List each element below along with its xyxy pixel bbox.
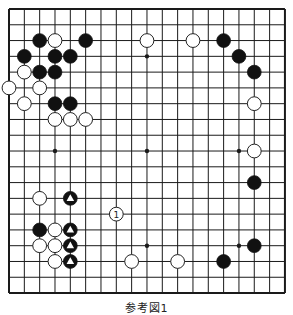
black-stone — [48, 97, 62, 111]
diagram-caption: 参考図1 — [0, 299, 293, 315]
black-stone — [48, 49, 62, 63]
black-stone-icon — [33, 65, 47, 79]
white-stone-icon — [247, 144, 261, 158]
black-stone — [79, 34, 93, 48]
black-stone — [63, 255, 77, 269]
black-stone-icon — [247, 65, 261, 79]
black-stone — [63, 97, 77, 111]
white-stone — [48, 113, 62, 127]
move-number-label: 1 — [113, 210, 119, 220]
white-stone — [48, 223, 62, 237]
black-stone-icon — [79, 34, 93, 48]
black-stone — [247, 176, 261, 190]
white-stone — [140, 34, 154, 48]
black-stone-icon — [63, 97, 77, 111]
white-stone: 1 — [109, 207, 123, 221]
white-stone — [48, 239, 62, 253]
white-stone — [247, 97, 261, 111]
white-stone-icon — [186, 34, 200, 48]
white-stone-icon — [33, 239, 47, 253]
black-stone — [217, 255, 231, 269]
white-stone-icon — [63, 113, 77, 127]
white-stone — [79, 113, 93, 127]
white-stone-icon — [140, 34, 154, 48]
white-stone — [171, 255, 185, 269]
white-stone-icon — [125, 255, 139, 269]
black-stone-icon — [232, 49, 246, 63]
white-stone — [48, 34, 62, 48]
black-stone — [247, 239, 261, 253]
white-stone — [33, 191, 47, 205]
star-point — [145, 149, 149, 153]
black-stone — [247, 65, 261, 79]
star-point — [145, 244, 149, 248]
white-stone-icon — [17, 65, 31, 79]
black-stone-icon — [63, 49, 77, 63]
black-stone-icon — [247, 176, 261, 190]
white-stone-icon — [33, 81, 47, 95]
black-stone-icon — [48, 65, 62, 79]
black-stone-icon — [33, 223, 47, 237]
black-stone-icon — [247, 239, 261, 253]
black-stone-icon — [48, 97, 62, 111]
white-stone — [33, 239, 47, 253]
black-stone — [63, 223, 77, 237]
white-stone-icon — [17, 97, 31, 111]
white-stone-icon — [2, 81, 16, 95]
black-stone — [17, 49, 31, 63]
white-stone — [2, 81, 16, 95]
black-stone-icon — [217, 255, 231, 269]
black-stone — [33, 223, 47, 237]
white-stone-icon — [48, 223, 62, 237]
white-stone — [125, 255, 139, 269]
black-stone-icon — [17, 49, 31, 63]
black-stone-icon — [48, 49, 62, 63]
white-stone — [247, 144, 261, 158]
white-stone — [63, 113, 77, 127]
star-point — [237, 149, 241, 153]
black-stone — [33, 34, 47, 48]
star-point — [53, 149, 57, 153]
black-stone — [63, 191, 77, 205]
white-stone-icon — [33, 191, 47, 205]
white-stone-icon — [48, 34, 62, 48]
go-board: 1 — [0, 0, 293, 300]
black-stone-icon — [33, 34, 47, 48]
black-stone-icon — [217, 34, 231, 48]
white-stone-icon — [171, 255, 185, 269]
white-stone — [33, 81, 47, 95]
black-stone — [48, 65, 62, 79]
white-stone — [186, 34, 200, 48]
white-stone — [17, 97, 31, 111]
white-stone-icon — [48, 239, 62, 253]
black-stone — [232, 49, 246, 63]
white-stone-icon — [79, 113, 93, 127]
black-stone — [63, 49, 77, 63]
black-stone — [217, 34, 231, 48]
black-stone — [63, 239, 77, 253]
star-point — [237, 244, 241, 248]
black-stone — [33, 65, 47, 79]
star-point — [145, 54, 149, 58]
white-stone-icon — [48, 113, 62, 127]
white-stone-icon — [247, 97, 261, 111]
white-stone-icon — [48, 255, 62, 269]
white-stone — [17, 65, 31, 79]
white-stone — [48, 255, 62, 269]
